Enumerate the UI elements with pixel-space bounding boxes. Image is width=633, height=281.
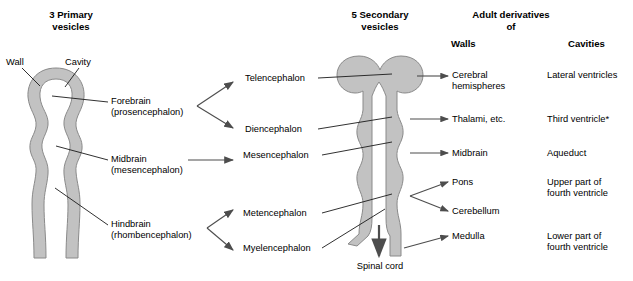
label-myelencephalon: Myelencephalon xyxy=(243,243,311,254)
arrow-to-medulla xyxy=(404,236,448,248)
heading-adult-derivatives: Adult derivatives of xyxy=(438,9,584,32)
heading-cavities: Cavities xyxy=(568,38,605,50)
heading-walls: Walls xyxy=(451,38,476,50)
label-lower-fourth-ventricle: Lower part of fourth ventricle xyxy=(547,231,608,253)
label-aqueduct: Aqueduct xyxy=(547,148,586,159)
leader-hindbrain xyxy=(55,188,108,225)
label-lateral-ventricles: Lateral ventricles xyxy=(547,70,617,81)
arrow-hindbrain-myelencephalon xyxy=(207,228,233,250)
heading-secondary-vesicles: 5 Secondary vesicles xyxy=(322,9,438,32)
label-pons: Pons xyxy=(452,177,473,188)
label-metencephalon: Metencephalon xyxy=(243,208,307,219)
label-mesencephalon: Mesencephalon xyxy=(243,150,309,161)
label-third-ventricle: Third ventricle* xyxy=(547,114,609,125)
label-forebrain: Forebrain (prosencephalon) xyxy=(111,96,183,118)
label-midbrain-adult: Midbrain xyxy=(452,148,488,159)
label-medulla: Medulla xyxy=(452,231,485,242)
label-spinal-cord: Spinal cord xyxy=(340,261,420,272)
arrow-forebrain-telencephalon xyxy=(197,82,233,106)
label-diencephalon: Diencephalon xyxy=(245,124,302,135)
arrow-forebrain-diencephalon xyxy=(197,106,233,128)
label-midbrain-primary: Midbrain (mesencephalon) xyxy=(111,154,183,176)
arrow-to-cerebellum xyxy=(410,196,448,211)
diagram-graphics xyxy=(0,0,633,281)
label-thalami: Thalami, etc. xyxy=(452,114,505,125)
label-cerebellum: Cerebellum xyxy=(452,206,500,217)
arrow-to-pons xyxy=(410,182,448,196)
label-upper-fourth-ventricle: Upper part of fourth ventricle xyxy=(547,177,608,199)
arrow-hindbrain-metencephalon xyxy=(207,210,233,228)
diagram-canvas: 3 Primary vesicles 5 Secondary vesicles … xyxy=(0,0,633,281)
label-cerebral-hemispheres: Cerebral hemispheres xyxy=(452,70,505,92)
leader-mesencephalon xyxy=(322,142,392,155)
label-wall: Wall xyxy=(6,57,24,68)
heading-primary-vesicles: 3 Primary vesicles xyxy=(16,9,126,32)
leader-diencephalon xyxy=(318,117,392,129)
label-hindbrain: Hindbrain (rhombencephalon) xyxy=(111,219,192,241)
leader-metencephalon xyxy=(322,194,392,213)
label-telencephalon: Telencephalon xyxy=(245,73,305,84)
label-cavity: Cavity xyxy=(65,57,91,68)
